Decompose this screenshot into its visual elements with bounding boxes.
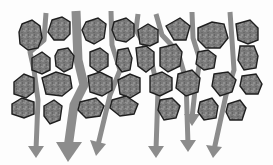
particle: [78, 98, 104, 118]
particle: [226, 100, 246, 120]
diagram-canvas: [0, 0, 273, 165]
particle: [110, 96, 138, 116]
particle: [12, 98, 34, 118]
particle: [150, 72, 172, 96]
particle: [48, 17, 70, 40]
particle: [19, 20, 42, 50]
particle: [160, 44, 182, 72]
particle: [176, 70, 200, 96]
particle: [55, 48, 74, 72]
particle: [112, 18, 134, 42]
particle: [118, 74, 140, 98]
particle: [90, 48, 108, 72]
particle: [196, 50, 216, 70]
particle: [198, 98, 218, 120]
particle: [82, 18, 106, 44]
particle: [32, 52, 50, 74]
particle: [42, 72, 72, 96]
soil-percolation-diagram: [0, 0, 273, 165]
particle: [238, 46, 258, 70]
particle: [198, 22, 228, 48]
particle: [14, 74, 34, 98]
particle: [166, 18, 190, 40]
particle: [44, 100, 62, 124]
particle: [240, 74, 262, 94]
particle: [158, 98, 180, 120]
particle: [88, 72, 112, 96]
particle: [138, 24, 158, 46]
particle: [236, 20, 258, 44]
particle: [212, 72, 236, 96]
particle: [136, 46, 154, 72]
